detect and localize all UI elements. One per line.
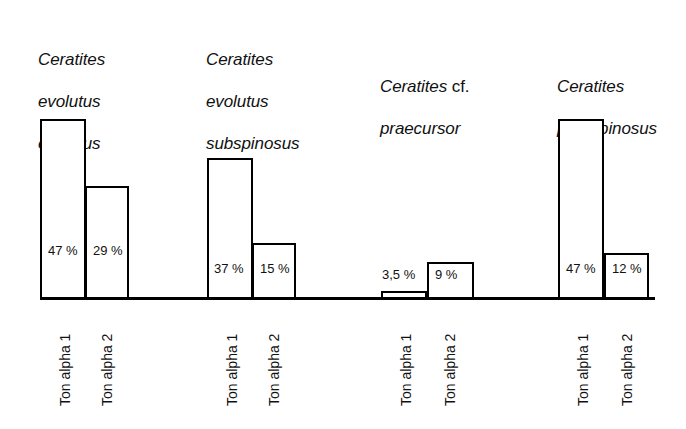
group-title-line: Ceratites [38,49,105,70]
bar-ceratites-evolutus-subspinosus-ton-alpha-1 [207,158,253,299]
group-title-line: Ceratites [557,76,657,97]
tick-label-g3-ton-alpha-1: Ton alpha 1 [576,334,590,406]
tick-label-g2-ton-alpha-2: Ton alpha 2 [443,334,457,406]
tick-label-g3-ton-alpha-2: Ton alpha 2 [620,334,634,406]
bar-value-label: 29 % [93,244,123,258]
group-title-line: praecursor [380,118,469,139]
bar-ceratites-praespinosus-ton-alpha-2 [604,253,649,299]
bar-value-label: 47 % [48,244,78,258]
cf-abbreviation: cf. [452,77,470,96]
bar-value-label: 47 % [566,262,596,276]
genus-name: Ceratites [380,77,447,96]
group-title-ceratites-cf-praecursor: Ceratites cf. praecursor [380,55,469,160]
bar-chart-figure: Ceratites evolutus evolutus Ceratites ev… [0,0,686,429]
group-title-line: Ceratites [206,49,299,70]
group-title-line: evolutus [38,91,105,112]
bar-value-label: 37 % [214,262,244,276]
group-title-line: evolutus [206,91,299,112]
tick-label-g1-ton-alpha-1: Ton alpha 1 [225,334,239,406]
bar-ceratites-evolutus-evolutus-ton-alpha-1 [40,119,86,299]
tick-label-g0-ton-alpha-1: Ton alpha 1 [58,334,72,406]
group-title-line: Ceratites cf. [380,76,469,97]
group-title-ceratites-evolutus-subspinosus: Ceratites evolutus subspinosus [206,28,299,175]
bar-value-label: 15 % [260,262,290,276]
baseline-axis [40,297,655,300]
bar-value-label: 9 % [435,268,457,282]
tick-label-g0-ton-alpha-2: Ton alpha 2 [100,334,114,406]
tick-label-g2-ton-alpha-1: Ton alpha 1 [399,334,413,406]
group-title-line: subspinosus [206,133,299,154]
bar-value-label: 3,5 % [382,268,415,282]
bar-value-label: 12 % [612,262,642,276]
tick-label-g1-ton-alpha-2: Ton alpha 2 [267,334,281,406]
